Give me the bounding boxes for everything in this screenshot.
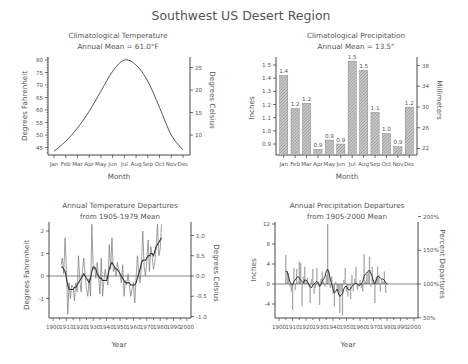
annual-precip-bar	[377, 267, 378, 285]
y-tick-label: 50	[36, 132, 44, 138]
annual-departure-line	[61, 224, 161, 314]
y-axis-label-left: Degrees Fahrenheit	[20, 71, 29, 141]
y-tick-label-right: 20	[195, 87, 203, 93]
y-tick-label-right: 22	[422, 145, 429, 151]
annual-precip-bar	[326, 275, 327, 284]
panel-temperature-climatology: Climatological Temperature Annual Mean =…	[20, 31, 217, 181]
x-axis-label: Year	[339, 340, 355, 349]
y-tick-label: 45	[36, 145, 44, 151]
y-tick-label: 75	[36, 70, 44, 76]
y-tick-label-right: -0.5	[196, 293, 207, 299]
x-tick-label: Jun	[335, 161, 345, 168]
x-tick-label: 1910	[285, 324, 300, 330]
annual-precip-bar	[291, 284, 292, 292]
annual-precip-bar	[315, 284, 316, 288]
y-tick-label: 1.3	[262, 88, 271, 94]
x-tick-label: Jan	[49, 161, 59, 168]
chart-subtitle: from 1905-1979 Mean	[80, 212, 160, 221]
annual-precip-bar	[323, 282, 324, 285]
x-tick-label: 1940	[326, 324, 341, 330]
bar-value-label: 0.9	[336, 137, 345, 143]
y-tick-label: 65	[36, 95, 44, 101]
annual-precip-bar	[351, 275, 352, 284]
annual-precip-bar	[382, 282, 383, 285]
plot-area: -1012-1.0-0.50.00.51.0190019101920193019…	[38, 222, 207, 330]
precip-bar	[337, 144, 345, 155]
chart-title: Climatological Precipitation	[307, 31, 405, 40]
x-tick-label: Jul	[348, 161, 356, 168]
y-tick-label: 0	[40, 273, 44, 279]
bar-value-label: 1.5	[348, 54, 357, 60]
annual-precip-bar	[374, 284, 375, 303]
x-tick-label: Dec	[404, 161, 415, 167]
panel-precipitation-climatology: Climatological Precipitation Annual Mean…	[247, 31, 444, 181]
annual-precip-bar	[334, 284, 335, 307]
plot-area: 455055606570758010152025JanFebMarAprMayJ…	[36, 57, 203, 168]
chart-title: Annual Temperature Departures	[62, 201, 178, 210]
precip-bar	[371, 112, 379, 155]
annual-precip-bar	[345, 268, 346, 284]
y-tick-label: -1	[38, 296, 44, 302]
x-axis-label: Month	[336, 172, 359, 181]
x-tick-label: May	[324, 161, 336, 168]
annual-precip-bar	[292, 284, 293, 310]
annual-precip-bar	[366, 274, 367, 284]
x-tick-label: Sep	[143, 161, 154, 168]
y-tick-label-right: -1.0	[196, 314, 207, 320]
annual-precip-bar	[311, 279, 312, 284]
annual-precip-bar	[385, 284, 386, 293]
chart-title: Climatological Temperature	[69, 31, 168, 40]
annual-precip-bar	[362, 284, 363, 292]
x-tick-label: 1980	[380, 324, 395, 330]
x-tick-label: 1950	[339, 324, 354, 330]
annual-precip-bar	[285, 255, 286, 284]
y-axis-label-right: Degrees Celsius	[208, 71, 217, 129]
y-tick-label: 1	[40, 251, 44, 257]
x-axis-label: Month	[108, 172, 131, 181]
chart-subtitle: from 1905-2000 Mean	[307, 212, 387, 221]
x-tick-label: Aug	[131, 161, 142, 168]
y-tick-label: 1.5	[262, 62, 271, 68]
precip-bar	[394, 147, 402, 155]
y-tick-label: 70	[36, 82, 44, 88]
x-tick-label: 2000	[180, 324, 195, 330]
y-tick-label-right: 26	[422, 125, 430, 131]
x-tick-label: 1990	[393, 324, 408, 330]
x-tick-label: Jul	[120, 161, 128, 168]
y-tick-label: 1.1	[262, 115, 271, 121]
bar-value-label: 1.2	[291, 101, 300, 107]
x-tick-label: 2000	[407, 324, 422, 330]
x-tick-label: Oct	[382, 161, 392, 167]
bar-value-label: 1.1	[371, 105, 380, 111]
x-tick-label: Mar	[301, 161, 312, 167]
annual-precip-bar	[341, 284, 342, 292]
precip-bar	[360, 70, 368, 155]
bar-value-label: 1.2	[302, 96, 311, 102]
y-tick-label: 8	[266, 241, 270, 247]
y-tick-label-right: 0.0	[196, 273, 205, 279]
x-tick-label: Nov	[166, 161, 178, 167]
chart-subtitle: Annual Mean = 61.0°F	[77, 42, 158, 51]
y-tick-label-right: 50%	[423, 315, 435, 321]
panel-precipitation-departures: Annual Precipitation Departures from 190…	[249, 201, 447, 349]
annual-precip-bar	[370, 284, 371, 287]
chart-subtitle: Annual Mean = 13.5"	[318, 42, 395, 51]
y-tick-label: 55	[36, 120, 44, 126]
y-tick-label-right: 10	[195, 132, 203, 138]
annual-precip-bar	[359, 280, 360, 284]
annual-precip-bar	[367, 272, 368, 285]
annual-precip-bar	[327, 224, 328, 284]
x-axis-label: Year	[110, 340, 126, 349]
y-tick-label: 1.0	[262, 128, 271, 134]
precip-bar	[348, 61, 356, 155]
x-tick-label: Aug	[358, 161, 369, 168]
x-tick-label: Sep	[370, 161, 381, 168]
annual-precip-bar	[296, 269, 297, 284]
x-tick-label: Mar	[72, 161, 83, 167]
x-tick-label: 1900	[272, 324, 287, 330]
annual-precip-bar	[335, 282, 336, 285]
panel-temperature-departures: Annual Temperature Departures from 1905-…	[22, 201, 221, 349]
x-tick-label: Jan	[278, 161, 288, 168]
precip-bar	[405, 107, 413, 155]
x-tick-label: Apr	[84, 161, 94, 168]
